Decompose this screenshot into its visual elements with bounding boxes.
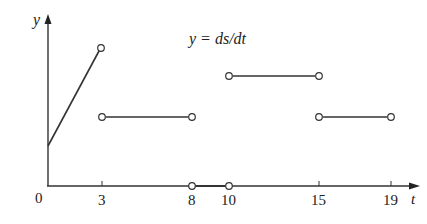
tick-label-8: 8	[188, 192, 196, 208]
x-axis-label: t	[411, 191, 416, 207]
origin-label: 0	[35, 190, 43, 206]
x-ticks	[102, 181, 391, 186]
y-axis-arrow-icon	[45, 14, 52, 24]
y-axis-label: y	[31, 11, 41, 29]
open-circle-icon	[316, 73, 323, 80]
tick-label-10: 10	[221, 192, 236, 208]
segment-0-3	[48, 51, 99, 146]
tick-label-19: 19	[383, 192, 398, 208]
open-circle-icon	[226, 183, 233, 190]
open-circle-icon	[388, 114, 395, 121]
x-axis-arrow-icon	[409, 183, 420, 190]
open-circle-icon	[98, 45, 105, 52]
open-circle-icon	[189, 114, 196, 121]
open-circle-icon	[226, 73, 233, 80]
open-circle-icon	[99, 114, 106, 121]
tick-label-3: 3	[98, 192, 106, 208]
open-circle-icon	[189, 183, 196, 190]
tick-label-15: 15	[311, 192, 326, 208]
velocity-graph: y t y = ds/dt 0 3 8 10 15 19	[0, 0, 427, 224]
open-circle-icon	[316, 114, 323, 121]
chart-title: y = ds/dt	[187, 30, 247, 48]
